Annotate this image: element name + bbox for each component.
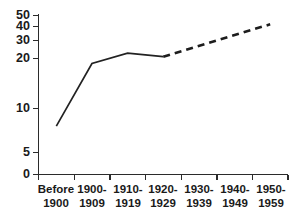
svg-text:1919: 1919 bbox=[115, 197, 141, 209]
y-axis-label-40: 40 bbox=[16, 19, 30, 33]
svg-text:1949: 1949 bbox=[222, 197, 248, 209]
svg-text:1950-: 1950- bbox=[256, 183, 286, 195]
y-axis-label-5: 5 bbox=[23, 145, 30, 159]
y-axis-label-30: 30 bbox=[16, 33, 30, 47]
svg-text:1909: 1909 bbox=[79, 197, 105, 209]
svg-text:1940-: 1940- bbox=[220, 183, 250, 195]
svg-text:1929: 1929 bbox=[150, 197, 176, 209]
line-chart: 50 40 30 20 10 5 0 Before 1900 190 bbox=[0, 0, 299, 218]
svg-text:1920-: 1920- bbox=[148, 183, 178, 195]
svg-text:1910-: 1910- bbox=[113, 183, 143, 195]
svg-text:1939: 1939 bbox=[186, 197, 212, 209]
y-axis-label-10: 10 bbox=[16, 101, 30, 115]
svg-text:Before: Before bbox=[38, 183, 74, 195]
svg-text:1900: 1900 bbox=[43, 197, 69, 209]
svg-text:1959: 1959 bbox=[258, 197, 284, 209]
y-axis-label-0: 0 bbox=[23, 167, 30, 181]
svg-text:1930-: 1930- bbox=[184, 183, 214, 195]
chart-container: 50 40 30 20 10 5 0 Before 1900 190 bbox=[0, 0, 299, 218]
svg-text:1900-: 1900- bbox=[77, 183, 107, 195]
y-axis-label-20: 20 bbox=[16, 51, 30, 65]
